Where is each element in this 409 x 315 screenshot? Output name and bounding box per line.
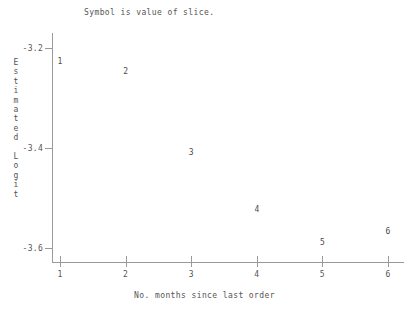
y-axis-title-char: t bbox=[10, 77, 22, 86]
chart-title: Symbol is value of slice. bbox=[84, 8, 214, 17]
x-tick-label: 3 bbox=[184, 270, 198, 279]
data-point-symbol: 5 bbox=[316, 238, 328, 247]
y-axis-title-char: o bbox=[10, 161, 22, 170]
y-axis-title-char: L bbox=[10, 152, 22, 161]
y-axis-title-char: d bbox=[10, 133, 22, 142]
y-axis-title-char: s bbox=[10, 67, 22, 76]
y-axis-title-char: g bbox=[10, 171, 22, 180]
y-axis-title-char: e bbox=[10, 124, 22, 133]
y-axis-title-char: E bbox=[10, 58, 22, 67]
x-tick-mark bbox=[126, 256, 127, 267]
data-point-symbol: 6 bbox=[382, 227, 394, 236]
y-tick-label: -3.6 bbox=[23, 244, 43, 253]
x-tick-mark bbox=[60, 256, 61, 267]
scatter-plot: Symbol is value of slice. -3.2-3.4-3.6 1… bbox=[0, 0, 409, 315]
x-tick-mark bbox=[388, 256, 389, 267]
y-axis-title-gap bbox=[10, 143, 22, 152]
x-tick-label: 6 bbox=[381, 270, 395, 279]
y-tick-label: -3.4 bbox=[23, 144, 43, 153]
data-point-symbol: 2 bbox=[120, 67, 132, 76]
x-axis-title: No. months since last order bbox=[0, 291, 409, 300]
y-axis-title-char: t bbox=[10, 190, 22, 199]
x-tick-mark bbox=[322, 256, 323, 267]
x-tick-label: 5 bbox=[315, 270, 329, 279]
y-axis-title-char: i bbox=[10, 86, 22, 95]
x-tick-mark bbox=[191, 256, 192, 267]
x-tick-label: 2 bbox=[119, 270, 133, 279]
data-point-symbol: 1 bbox=[54, 57, 66, 66]
y-tick-mark bbox=[45, 248, 53, 249]
y-axis-title-char: i bbox=[10, 180, 22, 189]
x-tick-label: 4 bbox=[250, 270, 264, 279]
x-axis-line bbox=[52, 262, 404, 263]
x-tick-label: 1 bbox=[53, 270, 67, 279]
y-axis-title-char: a bbox=[10, 105, 22, 114]
y-axis-title: EstimatedLogit bbox=[10, 58, 22, 199]
y-tick-mark bbox=[45, 48, 53, 49]
data-point-symbol: 3 bbox=[185, 148, 197, 157]
y-axis-title-char: t bbox=[10, 114, 22, 123]
x-tick-mark bbox=[257, 256, 258, 267]
data-point-symbol: 4 bbox=[251, 205, 263, 214]
y-axis-title-char: m bbox=[10, 96, 22, 105]
y-tick-mark bbox=[45, 148, 53, 149]
y-tick-label: -3.2 bbox=[23, 44, 43, 53]
